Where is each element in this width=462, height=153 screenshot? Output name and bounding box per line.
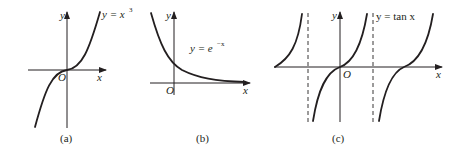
- x-axis-label: x: [435, 68, 441, 80]
- y-axis-label: y: [331, 9, 337, 21]
- origin-label: O: [343, 68, 351, 80]
- function-label: y = e: [189, 42, 213, 54]
- panel-c-tangent: y x O y = tan x (c): [274, 9, 442, 145]
- function-label-exponent: −x: [217, 40, 225, 48]
- y-axis-label: y: [165, 9, 171, 21]
- panel-a-cubic: y x O y = x 3 (a): [28, 6, 133, 145]
- function-label: y = tan x: [376, 10, 415, 22]
- y-axis-label: y: [59, 9, 65, 21]
- caption-a: (a): [60, 132, 73, 145]
- function-label-exponent: 3: [129, 6, 133, 14]
- tangent-branch-left: [275, 14, 302, 67]
- caption-c: (c): [332, 132, 345, 145]
- x-axis-label: x: [242, 84, 248, 96]
- x-axis-label: x: [96, 71, 102, 83]
- function-label: y = x: [101, 8, 125, 20]
- origin-label: O: [166, 84, 174, 96]
- panel-b-exponential: y x O y = e −x (b): [150, 9, 250, 145]
- caption-b: (b): [196, 132, 209, 145]
- function-graphs-figure: y x O y = x 3 (a) y x O y = e −x (b) y x…: [0, 0, 462, 153]
- origin-label: O: [58, 71, 66, 83]
